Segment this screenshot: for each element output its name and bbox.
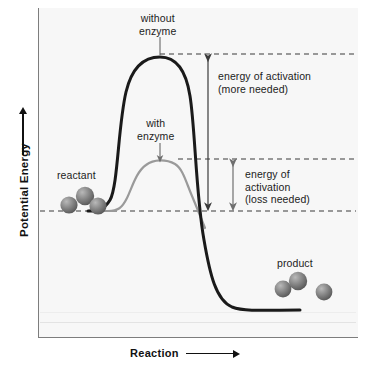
energy-diagram-figure: without enzyme with enzyme reactant prod… <box>0 0 366 372</box>
label-energy-of-activation-less: energy of activation (loss needed) <box>245 168 310 206</box>
reactant-molecule <box>60 187 106 215</box>
curve-with-enzyme <box>108 160 205 228</box>
product-molecule <box>275 272 333 301</box>
product-sphere-1 <box>275 281 292 298</box>
y-axis-label: Potential Energy <box>18 125 30 255</box>
label-with-enzyme: with enzyme <box>137 117 174 142</box>
label-product: product <box>277 257 313 270</box>
label-reactant: reactant <box>57 169 96 182</box>
reactant-sphere-3 <box>89 197 106 214</box>
y-axis-arrow-icon <box>22 113 24 155</box>
x-axis-label: Reaction <box>130 347 179 359</box>
x-axis-arrow-icon <box>186 353 234 355</box>
reactant-sphere-1 <box>60 196 77 213</box>
label-energy-of-activation-more: energy of activation (more needed) <box>218 70 311 95</box>
label-without-enzyme: without enzyme <box>139 12 176 37</box>
product-sphere-2 <box>289 272 307 290</box>
diagram-overlay <box>0 0 366 372</box>
product-sphere-3 <box>316 284 333 301</box>
